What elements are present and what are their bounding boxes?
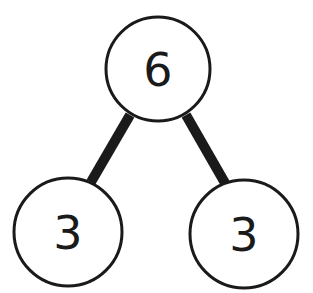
part-node-right: 3	[190, 180, 298, 288]
number-bond-diagram: 6 3 3	[0, 0, 313, 293]
part-node-left: 3	[14, 178, 122, 286]
part-right-value: 3	[229, 208, 258, 262]
whole-node: 6	[106, 17, 210, 121]
connector-left	[91, 115, 130, 182]
connector-right	[186, 115, 225, 183]
whole-value: 6	[143, 43, 172, 97]
part-left-value: 3	[53, 206, 82, 260]
